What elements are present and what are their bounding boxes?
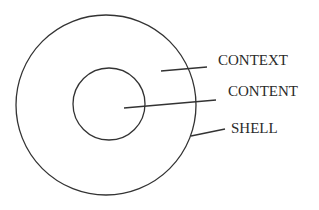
context-label: CONTEXT <box>218 52 288 68</box>
context-leader-line <box>161 67 207 71</box>
outer-circle-shell <box>16 15 196 195</box>
content-leader-line <box>124 100 216 108</box>
concentric-circles-diagram: CONTEXT CONTENT SHELL <box>0 0 319 210</box>
shell-label: SHELL <box>231 120 278 136</box>
content-label: CONTENT <box>228 83 298 99</box>
inner-circle-content <box>73 68 145 140</box>
shell-leader-line <box>191 129 225 136</box>
